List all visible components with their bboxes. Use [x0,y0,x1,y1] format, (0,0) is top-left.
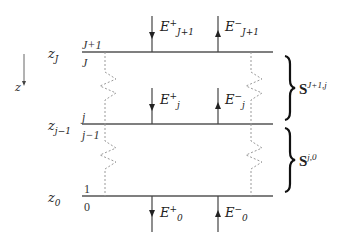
z-axis-arrow-icon [22,54,26,86]
up-arrow-mid-icon [215,88,221,124]
field-label-top-down: E+J+1 [160,20,194,33]
field-label-mid-down: E+j [160,93,180,106]
down-arrow-top-icon [149,16,155,52]
field-label-mid-up: E−j [225,93,245,106]
layer-index-j-1: j−1 [82,129,99,141]
up-arrow-bottom-icon [215,196,221,232]
brace-upper-icon [285,56,295,120]
scattering-matrix-upper: SJ+1,j [299,82,327,97]
layer-index-j: j [82,111,85,123]
interface-label-z0: z0 [48,191,61,204]
layer-index-J: J [82,57,87,69]
field-label-bottom-up: E−0 [225,206,248,219]
down-arrow-mid-icon [149,88,155,124]
layer-index-0: 0 [84,201,90,213]
interface-label-zj-1: zj−1 [48,119,71,132]
field-label-top-up: E−J+1 [225,20,259,33]
axis-label: z [15,82,21,93]
interface-label-zJ: zJ [48,47,58,60]
up-arrow-top-icon [215,16,221,52]
layer-index-J+1: J+1 [82,39,101,51]
layered-scattering-diagram: z zJ zj−1 z0 J+1 J j j−1 1 0 E+J+1 E−J+1… [0,0,342,243]
scattering-matrix-lower: Sj,0 [299,154,317,169]
layer-index-1: 1 [84,183,90,195]
brace-lower-icon [285,128,295,192]
down-arrow-bottom-icon [149,196,155,232]
field-label-bottom-down: E+0 [160,206,183,219]
